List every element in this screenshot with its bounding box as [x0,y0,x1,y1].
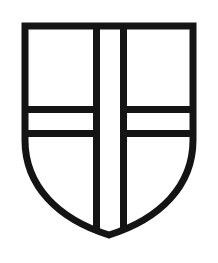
shield-drawing [0,0,218,263]
image-canvas [0,0,218,263]
